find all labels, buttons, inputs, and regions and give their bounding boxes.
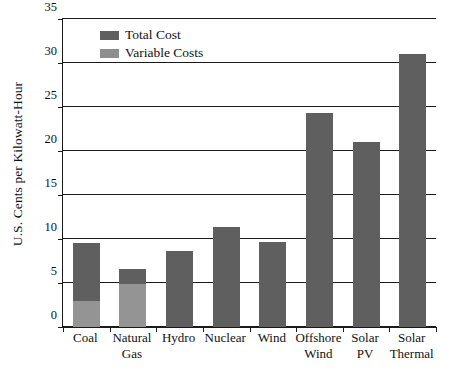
legend-swatch-icon bbox=[100, 31, 119, 40]
bar-segment-total-cost[interactable] bbox=[353, 142, 380, 327]
bar-group[interactable] bbox=[306, 113, 333, 327]
bar-group[interactable] bbox=[213, 227, 240, 327]
bar-segment-total-cost[interactable] bbox=[73, 243, 100, 301]
legend-item[interactable]: Total Cost bbox=[100, 27, 203, 43]
y-tick-label: 5 bbox=[51, 264, 57, 277]
y-tick-label: 10 bbox=[45, 220, 58, 233]
x-axis-labels: CoalNaturalGasHydroNuclearWindOffshoreWi… bbox=[62, 330, 436, 376]
chart-legend: Total CostVariable Costs bbox=[100, 27, 203, 61]
bar-segment-total-cost[interactable] bbox=[213, 227, 240, 327]
bar-segment-total-cost[interactable] bbox=[166, 251, 193, 327]
legend-swatch-icon bbox=[100, 49, 119, 58]
bar-segment-total-cost[interactable] bbox=[119, 269, 146, 284]
bar-segment-variable-costs[interactable] bbox=[73, 301, 100, 327]
bar-group[interactable] bbox=[353, 142, 380, 327]
x-axis-label: Nuclear bbox=[202, 330, 249, 346]
bar-group[interactable] bbox=[73, 243, 100, 327]
bar-segment-total-cost[interactable] bbox=[259, 242, 286, 327]
x-axis-label: Coal bbox=[62, 330, 109, 346]
x-axis-label: Hydro bbox=[155, 330, 202, 346]
legend-item[interactable]: Variable Costs bbox=[100, 45, 203, 61]
y-tick-label: 35 bbox=[45, 0, 58, 13]
bar-chart: U.S. Cents per Kilowatt-Hour 05101520253… bbox=[0, 0, 449, 376]
y-tick-label: 0 bbox=[51, 308, 57, 321]
y-tick-label: 15 bbox=[45, 176, 58, 189]
bar-group[interactable] bbox=[259, 242, 286, 327]
bar-segment-variable-costs[interactable] bbox=[119, 284, 146, 327]
legend-label: Total Cost bbox=[125, 28, 181, 42]
legend-label: Variable Costs bbox=[125, 46, 203, 60]
y-axis-title-text: U.S. Cents per Kilowatt-Hour bbox=[10, 82, 26, 246]
bar-group[interactable] bbox=[399, 54, 426, 327]
x-axis-label: SolarThermal bbox=[388, 330, 435, 362]
y-axis-title: U.S. Cents per Kilowatt-Hour bbox=[0, 0, 36, 328]
y-tick-label: 20 bbox=[45, 132, 58, 145]
x-axis-label: SolarPV bbox=[342, 330, 389, 362]
bar-segment-total-cost[interactable] bbox=[399, 54, 426, 327]
x-tick-mark bbox=[436, 327, 437, 332]
y-tick-label: 30 bbox=[45, 44, 58, 57]
bar-group[interactable] bbox=[166, 251, 193, 327]
x-axis-label: Wind bbox=[249, 330, 296, 346]
x-axis-label: NaturalGas bbox=[109, 330, 156, 362]
x-axis-label: OffshoreWind bbox=[295, 330, 342, 362]
y-tick-label: 25 bbox=[45, 88, 58, 101]
bars-layer bbox=[63, 19, 436, 327]
bar-segment-total-cost[interactable] bbox=[306, 113, 333, 327]
bar-group[interactable] bbox=[119, 269, 146, 327]
plot-area: 05101520253035 bbox=[62, 18, 436, 328]
